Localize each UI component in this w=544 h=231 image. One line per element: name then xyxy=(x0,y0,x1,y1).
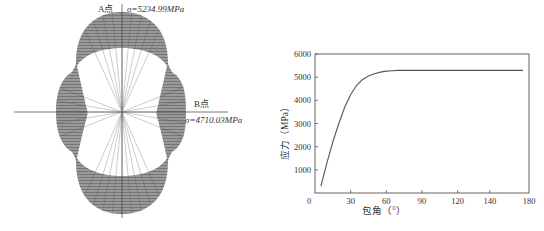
x-tick-label: 0 xyxy=(307,196,311,206)
point-b-label: B点 xyxy=(194,99,209,109)
stress-vs-wrap-angle-chart: 100020003000400050006000 030609012014018… xyxy=(272,0,544,231)
plot-frame xyxy=(315,54,529,193)
x-tick-label: 60 xyxy=(382,196,391,206)
point-a-value: σ=5234.99MPa xyxy=(127,4,185,14)
y-tick-label: 1000 xyxy=(294,165,311,175)
y-tick-label: 2000 xyxy=(294,142,311,152)
y-axis-label: 应力（MPa） xyxy=(279,102,290,160)
stress-distribution-diagram: A点 σ=5234.99MPa B点 σ=4710.03MPa xyxy=(0,0,272,231)
x-tick-label: 140 xyxy=(483,196,496,206)
x-tick-label: 180 xyxy=(523,196,536,206)
point-b-value: σ=4710.03MPa xyxy=(185,115,243,125)
x-axis-ticks: 0306090120140180 xyxy=(307,190,536,206)
diagram-svg: A点 σ=5234.99MPa B点 σ=4710.03MPa xyxy=(0,0,272,231)
chart-svg: 100020003000400050006000 030609012014018… xyxy=(272,0,544,231)
y-tick-label: 4000 xyxy=(294,95,311,105)
x-tick-label: 120 xyxy=(451,196,464,206)
x-tick-label: 30 xyxy=(346,196,355,206)
point-a-label: A点 xyxy=(98,4,114,14)
stress-band xyxy=(56,12,186,214)
y-axis-ticks: 100020003000400050006000 xyxy=(294,49,318,175)
x-axis-label: 包角（°） xyxy=(362,205,406,216)
y-tick-label: 3000 xyxy=(294,119,311,129)
x-tick-label: 90 xyxy=(418,196,427,206)
y-tick-label: 6000 xyxy=(294,49,311,59)
y-tick-label: 5000 xyxy=(294,72,311,82)
stress-curve xyxy=(321,70,523,186)
